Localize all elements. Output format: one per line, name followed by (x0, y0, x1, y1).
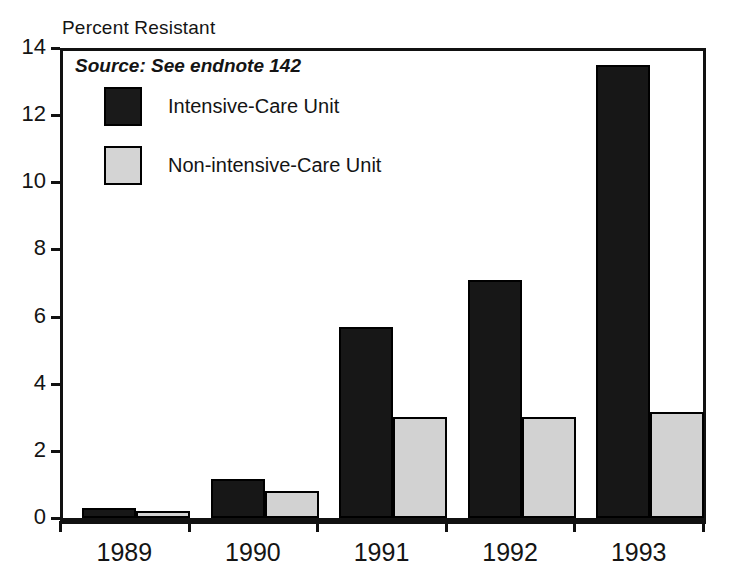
x-tick-mark (188, 521, 191, 532)
bar-nonicu (522, 417, 576, 518)
y-tick-label: 14 (22, 35, 46, 59)
y-tick-mark (51, 450, 60, 453)
y-tick-label: 12 (22, 102, 46, 126)
x-tick-label: 1991 (354, 538, 410, 566)
x-tick-label: 1993 (611, 538, 667, 566)
y-tick-mark (51, 114, 60, 117)
bar-chart-figure: Percent Resistant 14121086420 1989199019… (0, 0, 730, 582)
chart-axis-title: Percent Resistant (62, 17, 215, 39)
bar-nonicu (265, 491, 319, 518)
source-note: Source: See endnote 142 (75, 55, 301, 77)
x-tick-label: 1992 (482, 538, 538, 566)
legend-label-icu: Intensive-Care Unit (168, 95, 339, 118)
legend-entry-icu: Intensive-Care Unit (104, 87, 339, 126)
x-tick-label: 1990 (225, 538, 281, 566)
bar-icu (339, 327, 393, 518)
y-tick-label: 6 (34, 304, 46, 328)
x-tick-mark (59, 521, 62, 532)
y-tick-label: 2 (34, 438, 46, 462)
bar-nonicu (136, 511, 190, 518)
y-tick-mark (51, 248, 60, 251)
legend-entry-nonicu: Non-intensive-Care Unit (104, 146, 381, 185)
x-axis: 19891990199119921993 (0, 521, 730, 581)
x-tick-label: 1989 (96, 538, 152, 566)
bar-nonicu (393, 417, 447, 518)
bar-icu (82, 508, 136, 518)
bar-icu (596, 65, 650, 518)
legend-label-nonicu: Non-intensive-Care Unit (168, 154, 381, 177)
x-tick-mark (702, 521, 705, 532)
y-axis: 14121086420 (0, 0, 60, 582)
y-tick-mark (51, 181, 60, 184)
legend-swatch-icu-icon (104, 87, 142, 126)
legend-swatch-nonicu-icon (104, 146, 142, 185)
y-tick-label: 4 (34, 371, 46, 395)
x-tick-mark (316, 521, 319, 532)
y-tick-mark (51, 316, 60, 319)
bar-icu (211, 479, 265, 518)
y-tick-label: 10 (22, 169, 46, 193)
bar-nonicu (650, 412, 704, 518)
y-tick-mark (51, 517, 60, 520)
y-tick-label: 8 (34, 236, 46, 260)
y-tick-mark (51, 47, 60, 50)
y-tick-mark (51, 383, 60, 386)
x-tick-mark (445, 521, 448, 532)
bar-icu (468, 280, 522, 518)
x-tick-mark (573, 521, 576, 532)
